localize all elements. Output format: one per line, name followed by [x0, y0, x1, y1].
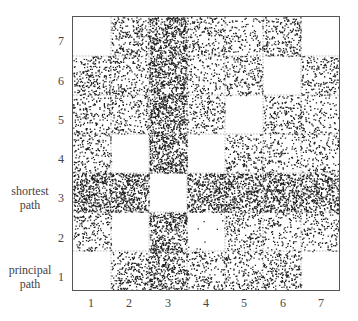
y-tick-6: 6 [48, 74, 64, 89]
shortest-path-label-line1: shortest [0, 184, 60, 198]
y-tick-7: 7 [48, 34, 64, 49]
shortest-path-label-line2: path [0, 198, 60, 212]
scatter-density-grid [73, 17, 339, 290]
principal-path-label-line1: principal [0, 263, 60, 277]
plot-area [72, 16, 340, 291]
y-tick-2: 2 [48, 231, 64, 246]
principal-path-label-line2: path [0, 277, 60, 291]
shortest-path-label: shortest path [0, 184, 60, 212]
x-tick-3: 3 [158, 296, 178, 311]
x-tick-4: 4 [196, 296, 216, 311]
scatter-points [73, 17, 339, 290]
x-tick-6: 6 [273, 296, 293, 311]
y-tick-5: 5 [48, 113, 64, 128]
x-tick-2: 2 [119, 296, 139, 311]
principal-path-label: principal path [0, 263, 60, 291]
x-tick-1: 1 [81, 296, 101, 311]
y-tick-4: 4 [48, 152, 64, 167]
x-tick-7: 7 [311, 296, 331, 311]
x-tick-5: 5 [234, 296, 254, 311]
